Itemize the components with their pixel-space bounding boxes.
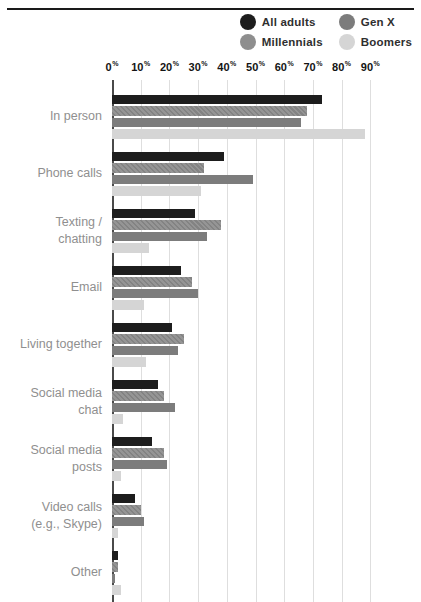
chart-axis: 0%10%20%30%40%50%60%70%80%90% [10, 60, 414, 88]
axis-tick-label-10: 10% [131, 60, 150, 73]
bar-group-phone-calls: Phone calls [10, 145, 414, 202]
bar-other-millennials [112, 562, 118, 572]
axis-tick-label-30: 30% [189, 60, 208, 73]
bar-social-media-posts-gen-x [112, 460, 167, 470]
legend-label-all-adults: All adults [262, 16, 316, 28]
legend-item-all-adults: All adults [240, 14, 323, 30]
category-label-in-person: In person [10, 88, 112, 145]
legend-label-boomers: Boomers [361, 36, 412, 48]
bars-living-together [112, 316, 414, 373]
percent-sign: % [112, 60, 118, 67]
percent-sign: % [144, 60, 150, 67]
percent-sign: % [345, 60, 351, 67]
bar-phone-calls-millennials [112, 163, 204, 173]
axis-tick-label-20: 20% [160, 60, 179, 73]
bar-social-media-chat-millennials [112, 391, 164, 401]
bars-in-person [112, 88, 414, 145]
category-label-social-media-chat: Social media chat [10, 373, 112, 430]
bar-video-calls-e-g-skype-millennials [112, 505, 141, 515]
bars-texting-chatting [112, 202, 414, 259]
bar-group-social-media-posts: Social media posts [10, 430, 414, 487]
bar-email-millennials [112, 277, 192, 287]
page-root: All adults Gen X Millennials Boomers 0%1… [0, 0, 421, 602]
bar-phone-calls-boomers [112, 186, 201, 196]
legend-label-gen-x: Gen X [361, 16, 395, 28]
legend-item-boomers: Boomers [339, 34, 412, 50]
axis-tick-label-70: 70% [303, 60, 322, 73]
bars-social-media-chat [112, 373, 414, 430]
percent-sign: % [230, 60, 236, 67]
bar-group-in-person: In person [10, 88, 414, 145]
chart-groups: In personPhone callsTexting / chattingEm… [10, 88, 414, 601]
bar-living-together-all-adults [112, 323, 172, 333]
bar-group-other: Other [10, 544, 414, 601]
legend-item-millennials: Millennials [240, 34, 323, 50]
bar-living-together-millennials [112, 334, 184, 344]
percent-sign: % [201, 60, 207, 67]
bar-group-social-media-chat: Social media chat [10, 373, 414, 430]
bars-social-media-posts [112, 430, 414, 487]
bar-social-media-chat-gen-x [112, 403, 175, 413]
percent-sign: % [259, 60, 265, 67]
legend-swatch-millennials [240, 34, 256, 50]
bar-social-media-posts-boomers [112, 471, 121, 481]
bar-social-media-chat-boomers [112, 414, 123, 424]
category-label-video-calls-e-g-skype: Video calls (e.g., Skype) [10, 487, 112, 544]
bar-texting-chatting-all-adults [112, 209, 195, 219]
top-divider [7, 8, 414, 10]
bar-email-boomers [112, 300, 144, 310]
bar-texting-chatting-boomers [112, 243, 149, 253]
category-label-phone-calls: Phone calls [10, 145, 112, 202]
bars-phone-calls [112, 145, 414, 202]
axis-tick-label-60: 60% [275, 60, 294, 73]
bar-email-all-adults [112, 266, 181, 276]
bar-video-calls-e-g-skype-gen-x [112, 517, 144, 527]
bar-group-email: Email [10, 259, 414, 316]
category-label-living-together: Living together [10, 316, 112, 373]
bar-social-media-posts-millennials [112, 448, 164, 458]
bar-living-together-boomers [112, 357, 146, 367]
legend-swatch-boomers [339, 34, 355, 50]
bar-in-person-gen-x [112, 118, 301, 128]
legend-swatch-all-adults [240, 14, 256, 30]
bar-living-together-gen-x [112, 346, 178, 356]
bars-email [112, 259, 414, 316]
category-label-email: Email [10, 259, 112, 316]
percent-sign: % [173, 60, 179, 67]
bar-email-gen-x [112, 289, 198, 299]
axis-tick-label-90: 90% [361, 60, 380, 73]
category-label-texting-chatting: Texting / chatting [10, 202, 112, 259]
bar-group-video-calls-e-g-skype: Video calls (e.g., Skype) [10, 487, 414, 544]
bar-other-boomers [112, 585, 121, 595]
percent-sign: % [287, 60, 293, 67]
bar-phone-calls-gen-x [112, 175, 253, 185]
category-label-other: Other [10, 544, 112, 601]
bars-other [112, 544, 414, 601]
bar-group-texting-chatting: Texting / chatting [10, 202, 414, 259]
bar-texting-chatting-gen-x [112, 232, 207, 242]
legend-label-millennials: Millennials [262, 36, 323, 48]
bar-social-media-chat-all-adults [112, 380, 158, 390]
axis-tick-label-80: 80% [332, 60, 351, 73]
legend-swatch-gen-x [339, 14, 355, 30]
axis-tick-label-0: 0% [106, 60, 119, 73]
bar-video-calls-e-g-skype-all-adults [112, 494, 135, 504]
percent-sign: % [316, 60, 322, 67]
legend-item-gen-x: Gen X [339, 14, 412, 30]
chart-area: 0%10%20%30%40%50%60%70%80%90% In personP… [10, 60, 414, 602]
bar-video-calls-e-g-skype-boomers [112, 528, 118, 538]
bar-in-person-all-adults [112, 95, 322, 105]
bar-texting-chatting-millennials [112, 220, 221, 230]
bar-phone-calls-all-adults [112, 152, 224, 162]
bar-in-person-boomers [112, 129, 365, 139]
axis-tick-label-40: 40% [217, 60, 236, 73]
bars-video-calls-e-g-skype [112, 487, 414, 544]
bar-group-living-together: Living together [10, 316, 414, 373]
axis-tick-label-50: 50% [246, 60, 265, 73]
chart-legend: All adults Gen X Millennials Boomers [240, 14, 412, 50]
bar-other-gen-x [112, 574, 115, 584]
category-label-social-media-posts: Social media posts [10, 430, 112, 487]
percent-sign: % [374, 60, 380, 67]
bar-in-person-millennials [112, 106, 307, 116]
bar-other-all-adults [112, 551, 118, 561]
